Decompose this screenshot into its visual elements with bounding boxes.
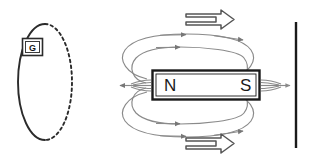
- south-pole-fan: [261, 80, 290, 91]
- field-line-lower-outer-arrow-1: [160, 136, 186, 137]
- motion-arrow-top: [186, 10, 234, 29]
- field-line-lower-outer-arrow-2: [214, 131, 243, 135]
- motion-arrow-top-shape: [186, 10, 234, 29]
- coil-back-half: [45, 24, 72, 140]
- field-line-upper-outer-arrow-2: [214, 36, 243, 40]
- magnet-north-label: N: [164, 76, 176, 95]
- field-line-upper-outer-arrow-1: [160, 35, 186, 36]
- galvanometer: G: [23, 39, 43, 56]
- magnet-south-label: S: [240, 76, 251, 95]
- diagram-canvas: G: [0, 0, 315, 167]
- induction-diagram: G: [0, 0, 315, 167]
- coil-group: G: [18, 24, 72, 140]
- galvanometer-label: G: [29, 43, 36, 53]
- bar-magnet: N S: [153, 71, 260, 100]
- north-pole-fan: [120, 80, 151, 91]
